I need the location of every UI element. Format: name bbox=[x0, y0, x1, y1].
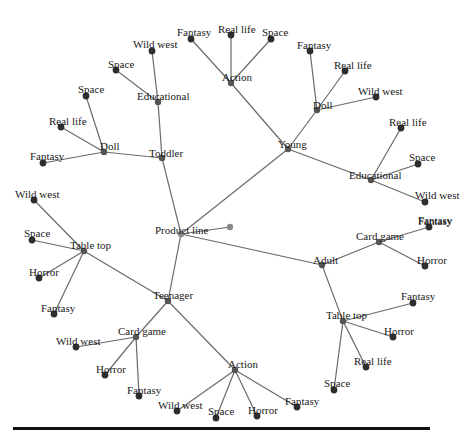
node-label-te-tt-space: Space bbox=[24, 227, 50, 239]
node-label-toddler: Toddler bbox=[149, 147, 183, 159]
node-label-t-edu: Educational bbox=[137, 90, 190, 102]
node-label-a-tt-horror: Horror bbox=[384, 325, 414, 337]
node-label-te-cg-horror: Horror bbox=[96, 363, 126, 375]
node-label-a-cg-horror: Horror bbox=[417, 254, 447, 266]
node-label-y-doll: Doll bbox=[313, 99, 333, 111]
node-label-t-doll-fantasy: Fantasy bbox=[30, 150, 65, 162]
tree-edge bbox=[181, 234, 322, 265]
node-label-y-edu-reallife: Real life bbox=[389, 116, 427, 128]
tree-edge bbox=[162, 158, 181, 234]
node-label-te-tt-horror: Horror bbox=[29, 266, 59, 278]
node-label-a-cg-fantasy: Fantasy bbox=[418, 214, 453, 226]
node-label-y-edu-wildwest: Wild west bbox=[415, 189, 459, 201]
node-label-y-action-reallife: Real life bbox=[218, 23, 256, 35]
node-label-a-tt-reallife: Real life bbox=[354, 355, 392, 367]
node-label-adult: Adult bbox=[313, 254, 338, 266]
node-label-te-act-space: Space bbox=[208, 405, 234, 417]
node-label-te-action: Action bbox=[228, 358, 258, 370]
node-label-te-act-wildwest: Wild west bbox=[158, 399, 202, 411]
node-label-y-doll-reallife: Real life bbox=[334, 59, 372, 71]
product-line-tree-diagram: Product lineYoungActionFantasyReal lifeS… bbox=[0, 0, 471, 438]
node-label-te-cg-fantasy: Fantasy bbox=[127, 384, 162, 396]
node-label-te-cardgame: Card game bbox=[118, 325, 166, 337]
node-label-t-edu-wildwest: Wild west bbox=[133, 38, 177, 50]
node-label-y-action: Action bbox=[222, 71, 252, 83]
node-label-te-tabletop: Table top bbox=[70, 239, 112, 251]
node-label-y-doll-fantasy: Fantasy bbox=[297, 39, 332, 51]
node-label-t-doll-space: Space bbox=[78, 83, 104, 95]
bottom-rule-divider bbox=[13, 427, 430, 430]
tree-labels: Product lineYoungActionFantasyReal lifeS… bbox=[15, 23, 459, 417]
node-label-y-action-space: Space bbox=[262, 26, 288, 38]
node-label-a-tabletop: Table top bbox=[326, 309, 368, 321]
tree-edge bbox=[181, 149, 288, 234]
node-label-a-cardgame: Card game bbox=[356, 230, 404, 242]
node-label-y-doll-wildwest: Wild west bbox=[358, 85, 402, 97]
node-label-te-cg-wildwest: Wild west bbox=[56, 335, 100, 347]
node-label-te-tt-wildwest: Wild west bbox=[15, 188, 59, 200]
node-label-teenager: Teenager bbox=[153, 289, 193, 301]
node-label-t-edu-space: Space bbox=[108, 58, 134, 70]
node-label-a-tt-space: Space bbox=[324, 377, 350, 389]
node-label-t-doll-reallife: Real life bbox=[49, 115, 87, 127]
node-label-t-doll: Doll bbox=[100, 140, 120, 152]
node-label-te-act-horror: Horror bbox=[248, 404, 278, 416]
node-label-y-edu: Educational bbox=[349, 169, 402, 181]
node-label-young: Young bbox=[278, 138, 307, 150]
node-label-y-action-fantasy: Fantasy bbox=[177, 26, 212, 38]
node-label-a-tt-fantasy: Fantasy bbox=[401, 290, 436, 302]
node-label-product-line: Product line bbox=[155, 224, 209, 236]
node-label-y-edu-space: Space bbox=[409, 151, 435, 163]
node-label-te-tt-fantasy: Fantasy bbox=[41, 302, 76, 314]
tree-node-pl-extra bbox=[227, 224, 233, 230]
tree-edge bbox=[168, 301, 235, 370]
node-label-te-act-fantasy: Fantasy bbox=[285, 395, 320, 407]
